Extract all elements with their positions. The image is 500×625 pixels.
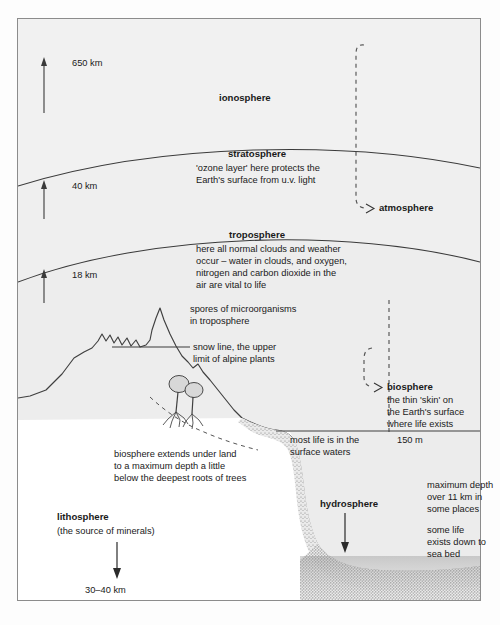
lithosphere-depth-label: 30–40 km — [85, 584, 126, 596]
surface-waters-label-1: most life is in the — [290, 434, 359, 446]
seabed-life-label-3: sea bed — [427, 548, 460, 560]
ionosphere-label: ionosphere — [219, 92, 271, 104]
atmosphere-label: atmosphere — [379, 202, 433, 214]
underland-label-3: below the deepest roots of trees — [114, 472, 246, 484]
max-depth-label-1: maximum depth — [427, 479, 493, 491]
stratosphere-label: stratosphere — [228, 148, 286, 160]
altitude-label-40km: 40 km — [72, 180, 97, 192]
troposphere-desc-4: air are vital to life — [196, 279, 266, 291]
stratosphere-desc-1: 'ozone layer' here protects the — [196, 162, 320, 174]
troposphere-desc-2: occur – water in clouds, and oxygen, — [196, 255, 347, 267]
biosphere-label: biosphere — [387, 381, 433, 393]
seabed-life-label-1: some life — [427, 524, 464, 536]
hydrosphere-label: hydrosphere — [320, 498, 378, 510]
spores-label-1: spores of microorganisms — [190, 303, 296, 315]
max-depth-label-2: over 11 km in — [427, 491, 482, 503]
surface-waters-label-2: surface waters — [290, 446, 350, 458]
altitude-label-18km: 18 km — [72, 269, 97, 281]
spores-label-2: in troposphere — [190, 315, 249, 327]
biosphere-desc-3: where life exists — [387, 418, 453, 430]
biosphere-desc-1: the thin 'skin' on — [387, 394, 453, 406]
lithosphere-sub-label: (the source of minerals) — [57, 525, 155, 537]
snow-line-label-2: limit of alpine plants — [193, 353, 275, 365]
biosphere-desc-2: the Earth's surface — [387, 406, 464, 418]
troposphere-label: troposphere — [229, 229, 285, 241]
underland-label-2: to a maximum depth a little — [114, 460, 225, 472]
stratosphere-desc-2: Earth's surface from u.v. light — [196, 174, 315, 186]
snow-line-label-1: snow line, the upper — [193, 341, 276, 353]
underland-label-1: biosphere extends under land — [114, 448, 237, 460]
lithosphere-label: lithosphere — [57, 511, 109, 523]
depth-150m-label: 150 m — [397, 434, 423, 446]
seabed-life-label-2: exists down to — [427, 536, 486, 548]
tree-canopy-right — [185, 383, 203, 398]
troposphere-desc-3: nitrogen and carbon dioxide in the — [196, 267, 336, 279]
figure-container: Figure 4.19The biosphere in relation to … — [0, 0, 500, 625]
troposphere-desc-1: here all normal clouds and weather — [196, 243, 341, 255]
max-depth-label-3: some places — [427, 503, 479, 515]
altitude-label-650km: 650 km — [72, 57, 103, 69]
seabed-fade — [300, 556, 480, 600]
